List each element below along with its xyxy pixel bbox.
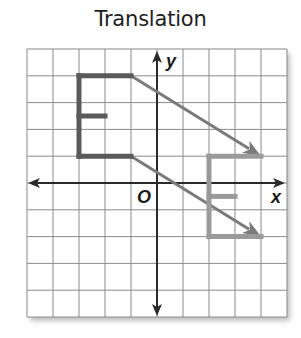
x-axis-label: x <box>270 187 282 207</box>
origin-label: O <box>137 187 151 207</box>
y-axis-label: y <box>165 51 177 71</box>
coordinate-plane: y O x <box>0 0 301 338</box>
